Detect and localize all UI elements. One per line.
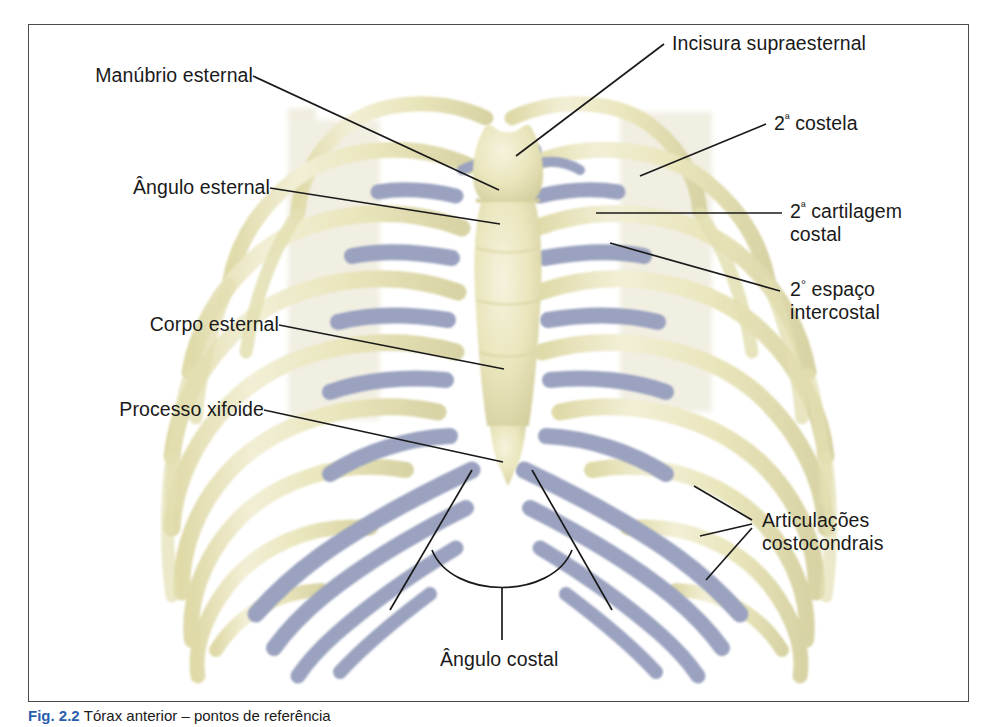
label-articulacoes-line1: Articulações [762, 509, 869, 531]
label-angulo-esternal: Ângulo esternal [40, 176, 270, 199]
label-angulo-costal: Ângulo costal [440, 648, 558, 671]
label-2-espaco-intercostal: 2° espaçointercostal [790, 278, 880, 324]
label-cartilagem-num: 2 [790, 200, 801, 222]
thorax-anatomy-illustration [0, 0, 997, 727]
label-2a-costela: 2ª costela [774, 112, 858, 135]
label-cartilagem-line2: costal [790, 223, 842, 245]
label-espaco-line2: intercostal [790, 301, 880, 323]
label-incisura-supraesternal: Incisura supraesternal [672, 32, 866, 55]
label-articulacoes-line2: costocondrais [762, 532, 884, 554]
sternum [473, 125, 543, 486]
leader-artic-2 [700, 524, 752, 536]
label-2a-costela-num: 2 [774, 112, 785, 134]
label-cartilagem-line1: cartilagem [806, 200, 902, 222]
sternal-body [474, 202, 541, 426]
label-2a-costela-text: costela [790, 112, 858, 134]
label-manubrio-esternal: Manúbrio esternal [40, 64, 253, 87]
figure-page: Manúbrio esternal Ângulo esternal Corpo … [0, 0, 997, 727]
label-processo-xifoide: Processo xifoide [40, 398, 264, 421]
label-articulacoes-costocondrais: Articulaçõescostocondrais [762, 509, 884, 555]
manubrium [473, 125, 543, 202]
figure-number: Fig. 2.2 [28, 707, 84, 724]
label-2a-cartilagem-costal: 2ª cartilagemcostal [790, 200, 902, 246]
figure-caption-text: Tórax anterior – pontos de referência [84, 707, 331, 724]
figure-caption: Fig. 2.2 Tórax anterior – pontos de refe… [28, 706, 968, 727]
label-espaco-num: 2 [790, 278, 801, 300]
label-espaco-line1: espaço [806, 278, 875, 300]
label-corpo-esternal: Corpo esternal [40, 313, 279, 336]
